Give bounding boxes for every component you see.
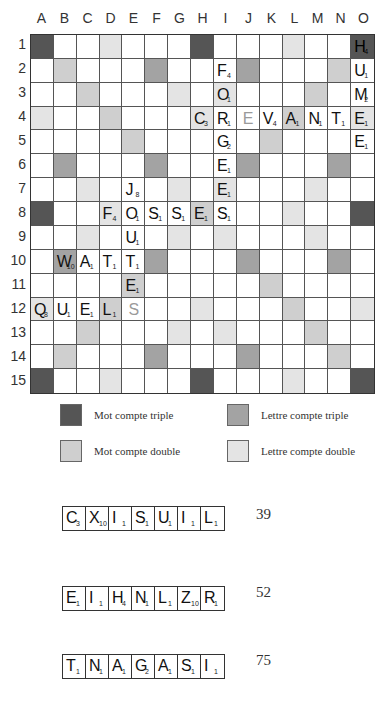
board-cell-A13[interactable]: [31, 321, 54, 345]
board-cell-F1[interactable]: [145, 35, 168, 59]
board-cell-K15[interactable]: [260, 369, 283, 393]
board-cell-I7[interactable]: E1: [214, 178, 237, 202]
board-cell-A15[interactable]: [31, 369, 54, 393]
board-cell-N13[interactable]: [328, 321, 351, 345]
board-cell-E15[interactable]: [122, 369, 145, 393]
board-cell-H1[interactable]: [191, 35, 214, 59]
board-cell-N11[interactable]: [328, 274, 351, 298]
board-cell-J9[interactable]: [237, 226, 260, 250]
board-cell-C8[interactable]: [77, 202, 100, 226]
board-cell-N15[interactable]: [328, 369, 351, 393]
board-cell-B8[interactable]: [54, 202, 77, 226]
board-cell-C7[interactable]: [77, 178, 100, 202]
board-cell-I10[interactable]: [214, 250, 237, 274]
board-cell-O6[interactable]: [351, 154, 374, 178]
board-cell-K7[interactable]: [260, 178, 283, 202]
rack-tile[interactable]: L1: [201, 507, 224, 530]
board-cell-E13[interactable]: [122, 321, 145, 345]
board-cell-D12[interactable]: L1: [100, 298, 123, 322]
board-cell-L8[interactable]: [283, 202, 306, 226]
rack-tile[interactable]: E1: [63, 587, 86, 610]
board-cell-B14[interactable]: [54, 345, 77, 369]
board-cell-L13[interactable]: [283, 321, 306, 345]
board-cell-B10[interactable]: W10: [54, 250, 77, 274]
board-cell-L4[interactable]: A1: [283, 107, 306, 131]
board-cell-G11[interactable]: [168, 274, 191, 298]
board-cell-B2[interactable]: [54, 59, 77, 83]
board-cell-A14[interactable]: [31, 345, 54, 369]
board-cell-M3[interactable]: [305, 83, 328, 107]
board-cell-E2[interactable]: [122, 59, 145, 83]
board-cell-K14[interactable]: [260, 345, 283, 369]
board-cell-N6[interactable]: [328, 154, 351, 178]
board-cell-F3[interactable]: [145, 83, 168, 107]
board-cell-A9[interactable]: [31, 226, 54, 250]
board-cell-I14[interactable]: [214, 345, 237, 369]
board-cell-O11[interactable]: [351, 274, 374, 298]
board-cell-D4[interactable]: [100, 107, 123, 131]
board-cell-H10[interactable]: [191, 250, 214, 274]
board-cell-K6[interactable]: [260, 154, 283, 178]
board-cell-D9[interactable]: [100, 226, 123, 250]
board-cell-I5[interactable]: G2: [214, 130, 237, 154]
board-cell-A2[interactable]: [31, 59, 54, 83]
rack-tile[interactable]: N1: [86, 655, 109, 678]
board-cell-F11[interactable]: [145, 274, 168, 298]
board-cell-E3[interactable]: [122, 83, 145, 107]
board-cell-F15[interactable]: [145, 369, 168, 393]
board-cell-O5[interactable]: E1: [351, 130, 374, 154]
board-cell-G5[interactable]: [168, 130, 191, 154]
board-cell-O9[interactable]: [351, 226, 374, 250]
rack-tile[interactable]: R1: [201, 587, 224, 610]
board-cell-F2[interactable]: [145, 59, 168, 83]
board-cell-O8[interactable]: [351, 202, 374, 226]
board-cell-H6[interactable]: [191, 154, 214, 178]
rack-tile[interactable]: N1: [132, 587, 155, 610]
board-cell-G14[interactable]: [168, 345, 191, 369]
board-cell-G15[interactable]: [168, 369, 191, 393]
board-cell-D5[interactable]: [100, 130, 123, 154]
board-cell-M4[interactable]: N1: [305, 107, 328, 131]
rack-tile[interactable]: A1: [155, 655, 178, 678]
board-cell-B15[interactable]: [54, 369, 77, 393]
board-cell-N3[interactable]: [328, 83, 351, 107]
board-cell-D11[interactable]: [100, 274, 123, 298]
board-cell-E4[interactable]: [122, 107, 145, 131]
board-cell-C13[interactable]: [77, 321, 100, 345]
board-cell-B12[interactable]: U1: [54, 298, 77, 322]
board-cell-K13[interactable]: [260, 321, 283, 345]
rack-tile[interactable]: A1: [109, 655, 132, 678]
board-cell-A4[interactable]: [31, 107, 54, 131]
board-cell-I4[interactable]: R1: [214, 107, 237, 131]
rack-tile[interactable]: X10: [86, 507, 109, 530]
board-cell-G7[interactable]: [168, 178, 191, 202]
board-cell-J1[interactable]: [237, 35, 260, 59]
board-cell-K8[interactable]: [260, 202, 283, 226]
board-cell-G12[interactable]: [168, 298, 191, 322]
board-cell-I6[interactable]: E1: [214, 154, 237, 178]
board-cell-N4[interactable]: T1: [328, 107, 351, 131]
board-cell-L3[interactable]: [283, 83, 306, 107]
board-cell-G2[interactable]: [168, 59, 191, 83]
board-cell-G10[interactable]: [168, 250, 191, 274]
board-cell-O14[interactable]: [351, 345, 374, 369]
board-cell-D8[interactable]: F4: [100, 202, 123, 226]
board-cell-H15[interactable]: [191, 369, 214, 393]
board-cell-O7[interactable]: [351, 178, 374, 202]
board-cell-J14[interactable]: [237, 345, 260, 369]
board-cell-C15[interactable]: [77, 369, 100, 393]
board-cell-F14[interactable]: [145, 345, 168, 369]
board-cell-J4[interactable]: E: [237, 107, 260, 131]
board-cell-L11[interactable]: [283, 274, 306, 298]
board-cell-I3[interactable]: O1: [214, 83, 237, 107]
board-cell-C12[interactable]: E1: [77, 298, 100, 322]
board-cell-C6[interactable]: [77, 154, 100, 178]
board-cell-A7[interactable]: [31, 178, 54, 202]
rack-tile[interactable]: I1: [201, 655, 224, 678]
board-cell-O2[interactable]: U1: [351, 59, 374, 83]
rack-tile[interactable]: L1: [155, 587, 178, 610]
board-cell-H11[interactable]: [191, 274, 214, 298]
board-cell-J10[interactable]: [237, 250, 260, 274]
board-cell-L2[interactable]: [283, 59, 306, 83]
rack-tile[interactable]: I1: [86, 587, 109, 610]
